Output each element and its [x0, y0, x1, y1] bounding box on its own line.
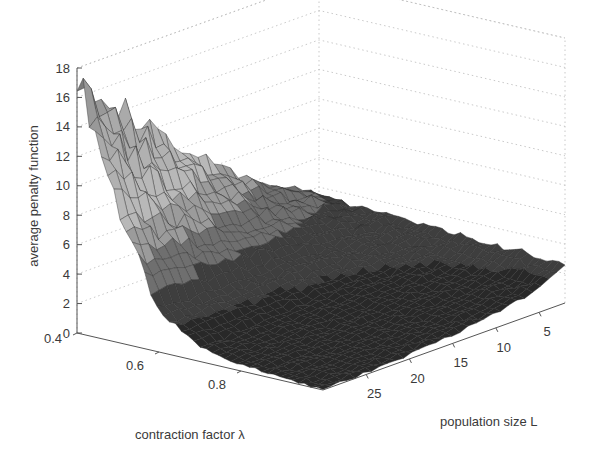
- lambda-tick-label: 0.4: [44, 331, 62, 346]
- z-tick-label: 16: [56, 90, 70, 105]
- z-axis-label: average penalty function: [26, 125, 41, 267]
- L-tick-label: 15: [453, 355, 467, 370]
- L-tick-label: 10: [497, 340, 511, 355]
- z-tick-label: 8: [63, 208, 70, 223]
- z-ticks: 024681012141618: [56, 61, 82, 341]
- lambda-tick-label: 0.8: [208, 377, 226, 392]
- lambda-tick-label: 0.6: [126, 358, 144, 373]
- lambda-axis-label: contraction factor λ: [135, 427, 245, 442]
- z-tick-label: 10: [56, 178, 70, 193]
- surface-chart: 024681012141618 0.40.60.8 510152025 aver…: [0, 0, 592, 465]
- z-tick-label: 4: [63, 267, 70, 282]
- surface: [77, 78, 565, 389]
- z-tick-label: 6: [63, 237, 70, 252]
- L-tick-label: 20: [410, 371, 424, 386]
- z-tick-label: 14: [56, 119, 70, 134]
- z-tick-label: 12: [56, 149, 70, 164]
- L-axis-label: population size L: [440, 414, 538, 429]
- L-tick-label: 25: [367, 386, 381, 401]
- L-tick-label: 5: [543, 324, 550, 339]
- z-tick-label: 0: [63, 326, 70, 341]
- z-tick-label: 18: [56, 61, 70, 76]
- z-tick-label: 2: [63, 296, 70, 311]
